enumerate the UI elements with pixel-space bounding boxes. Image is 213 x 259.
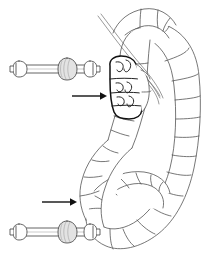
spicule-knob-median — [58, 58, 77, 80]
spicule-knob-left — [13, 61, 27, 77]
spicule-knob-left-tip — [10, 229, 13, 235]
spicule-knob-right — [84, 224, 97, 240]
figure-root — [0, 0, 213, 259]
spicule-knob-right-tip — [97, 66, 100, 72]
spicule-knob-right — [84, 61, 97, 77]
spicule-knob-right-tip — [97, 229, 100, 235]
spicule-knob-median — [58, 221, 77, 243]
line-drawing-figure — [0, 0, 213, 259]
prothorax-seg-line — [157, 10, 158, 28]
spicule-knob-left — [13, 224, 27, 240]
spicule-knob-left-tip — [10, 66, 13, 72]
